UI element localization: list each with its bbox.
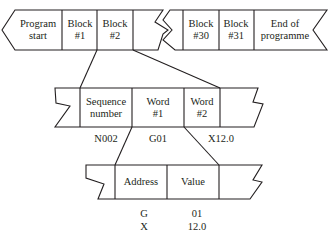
word-row xyxy=(86,165,262,199)
example-address-x: X xyxy=(140,221,148,233)
label-line: Block xyxy=(188,18,213,30)
label-line: Block xyxy=(67,18,92,30)
cell-block-1: Block #1 xyxy=(67,18,92,42)
example-word-1: G01 xyxy=(149,133,167,145)
cell-address: Address xyxy=(124,176,158,188)
cell-sequence-number: Sequence number xyxy=(86,96,126,120)
example-word-2: X12.0 xyxy=(208,133,234,145)
expand-line-left xyxy=(80,50,97,88)
label-line: Word xyxy=(146,96,169,108)
label-line: #2 xyxy=(102,30,127,42)
example-sequence-number: N002 xyxy=(94,133,117,145)
label-line: Word xyxy=(190,96,213,108)
label-line: Sequence xyxy=(86,96,126,108)
example-value-01: 01 xyxy=(192,208,203,220)
example-value-12: 12.0 xyxy=(188,221,206,233)
label-line: number xyxy=(86,108,126,120)
label-line: start xyxy=(20,30,56,42)
label-line: programme xyxy=(261,30,309,42)
label-line: #1 xyxy=(67,30,92,42)
label-line: Block xyxy=(223,18,248,30)
label-line: End of xyxy=(261,18,309,30)
label-line: Program xyxy=(20,18,56,30)
cell-value: Value xyxy=(181,176,205,188)
label-line: #2 xyxy=(190,108,213,120)
label-line: #1 xyxy=(146,108,169,120)
cell-word-1: Word #1 xyxy=(146,96,169,120)
label-line: #30 xyxy=(188,30,213,42)
cell-block-2: Block #2 xyxy=(102,18,127,42)
cell-program-start: Program start xyxy=(20,18,56,42)
cell-word-2: Word #2 xyxy=(190,96,213,120)
cell-block-31: Block #31 xyxy=(223,18,248,42)
example-address-g: G xyxy=(140,208,148,220)
label-line: #31 xyxy=(223,30,248,42)
cell-block-30: Block #30 xyxy=(188,18,213,42)
expand-line-right xyxy=(133,50,220,88)
label-line: Block xyxy=(102,18,127,30)
cell-end-of-programme: End of programme xyxy=(261,18,309,42)
